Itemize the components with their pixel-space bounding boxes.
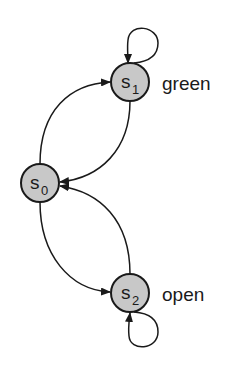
state-s1-sub: 1 bbox=[132, 82, 139, 97]
edge-s0-s1 bbox=[40, 82, 110, 164]
state-s1-label: green bbox=[162, 73, 211, 94]
state-s0-sub: 0 bbox=[41, 183, 48, 198]
state-s1-name: s bbox=[121, 71, 131, 92]
edge-s0-s2 bbox=[40, 202, 110, 292]
edge-s2-self bbox=[129, 312, 158, 347]
state-diagram: s 1 green s 0 s 2 open bbox=[0, 0, 245, 365]
state-s2-name: s bbox=[121, 282, 131, 303]
edge-s1-s0 bbox=[60, 101, 130, 182]
state-s2-sub: 2 bbox=[132, 293, 139, 308]
edge-s2-s0 bbox=[60, 186, 130, 274]
edge-s1-self bbox=[128, 28, 158, 63]
state-s2-label: open bbox=[162, 284, 204, 305]
state-s1: s 1 green bbox=[111, 63, 211, 101]
state-s2: s 2 open bbox=[111, 274, 204, 312]
state-s0: s 0 bbox=[21, 164, 59, 202]
state-s0-name: s bbox=[30, 172, 40, 193]
